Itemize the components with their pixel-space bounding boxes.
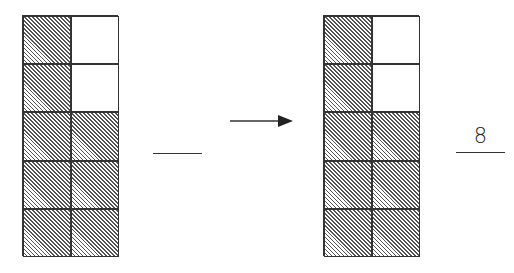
shaded-cell: [324, 209, 372, 257]
unshaded-cell: [71, 64, 119, 112]
right-answer-value: 8: [456, 124, 505, 148]
unshaded-cell: [372, 64, 420, 112]
left-answer-blank: [153, 153, 202, 154]
unshaded-cell: [71, 16, 119, 64]
shaded-cell: [71, 112, 119, 160]
shaded-cell: [324, 16, 372, 64]
unshaded-cell: [372, 16, 420, 64]
shaded-cell: [23, 209, 71, 257]
shaded-cell: [71, 209, 119, 257]
right-shaded-grid: [323, 15, 419, 256]
shaded-cell: [23, 112, 71, 160]
shaded-cell: [372, 209, 420, 257]
right-arrow-icon: [228, 113, 296, 129]
shaded-cell: [23, 16, 71, 64]
shaded-cell: [372, 161, 420, 209]
shaded-cell: [23, 161, 71, 209]
shaded-cell: [372, 112, 420, 160]
shaded-cell: [71, 161, 119, 209]
shaded-cell: [324, 64, 372, 112]
right-answer-line: [456, 152, 505, 153]
shaded-cell: [23, 64, 71, 112]
shaded-cell: [324, 112, 372, 160]
left-shaded-grid: [22, 15, 118, 256]
shaded-cell: [324, 161, 372, 209]
